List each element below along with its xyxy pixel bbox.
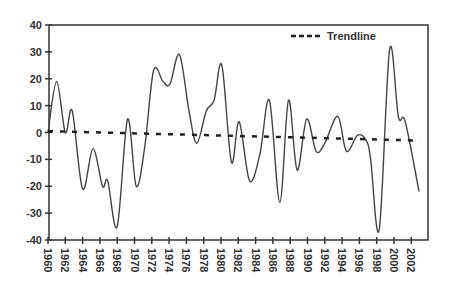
line-chart: 403020100-10-20-30-40 196019621964196619… (0, 0, 452, 290)
x-tick-label: 1962 (59, 248, 71, 272)
y-tick-label: -40 (26, 234, 42, 246)
y-tick-label: 0 (36, 127, 42, 139)
x-tick-label: 1998 (371, 248, 383, 272)
legend-trendline-label: Trendline (327, 30, 376, 42)
x-tick-label: 1964 (77, 248, 89, 273)
x-tick-label: 1990 (302, 248, 314, 272)
trendline (48, 131, 420, 140)
x-tick-label: 1978 (198, 248, 210, 272)
x-tick-label: 1960 (42, 248, 54, 272)
y-tick-label: 20 (30, 73, 42, 85)
x-tick-label: 1976 (180, 248, 192, 272)
x-tick-label: 1994 (336, 248, 348, 273)
x-tick-label: 1968 (111, 248, 123, 272)
x-tick-label: 2000 (388, 248, 400, 272)
y-tick-label: -20 (26, 180, 42, 192)
x-tick-label: 1996 (353, 248, 365, 272)
legend: Trendline (291, 30, 376, 42)
x-tick-label: 1974 (163, 248, 175, 273)
x-tick-label: 1980 (215, 248, 227, 272)
y-tick-label: 40 (30, 19, 42, 31)
x-tick-label: 1966 (94, 248, 106, 272)
plot-frame (49, 25, 428, 240)
x-axis: 1960196219641966196819701972197419761978… (42, 237, 417, 273)
x-tick-label: 1982 (232, 248, 244, 272)
y-tick-label: 10 (30, 100, 42, 112)
y-tick-label: 30 (30, 46, 42, 58)
y-tick-label: -10 (26, 153, 42, 165)
x-tick-label: 1972 (146, 248, 158, 272)
x-tick-label: 1988 (284, 248, 296, 272)
x-tick-label: 1970 (129, 248, 141, 272)
y-tick-label: -30 (26, 207, 42, 219)
x-tick-label: 1992 (319, 248, 331, 272)
plot-border (49, 25, 428, 240)
x-tick-label: 1986 (267, 248, 279, 272)
series-layer (48, 46, 420, 232)
x-tick-label: 1984 (250, 248, 262, 273)
x-tick-label: 2002 (405, 248, 417, 272)
